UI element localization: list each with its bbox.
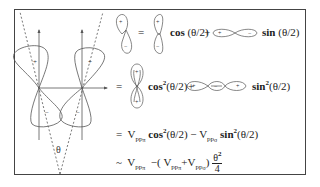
row4-inner-v1-subsub: π [178,165,181,171]
row4-inner-v2: V [188,156,196,168]
row2-sin: sin [252,80,265,92]
row2-cos-arg: (θ/2) [166,80,187,92]
svg-text:+: + [218,30,222,36]
row1-cos: cos [170,26,185,38]
row4-approx: ~ [116,156,122,168]
row3-cos: cos [148,128,163,140]
svg-text:+: + [135,99,139,105]
row1-plus: + [204,27,210,38]
row2-plus: + [188,81,194,92]
row3-v2-subsub: σ [214,137,217,143]
row3-sin-exp: 2 [234,127,238,135]
arrowhead-right [104,87,108,90]
row1-equals: = [138,27,144,38]
row4-close: ) [206,156,210,168]
row3-v2: V [199,128,207,140]
row3-expression: = Vppπ cos2(θ/2) − Vppσ sin2(θ/2) [116,129,258,140]
row3-sin: sin [220,128,233,140]
svg-text:+: + [119,19,123,25]
row3-sin-arg: (θ/2) [237,128,258,140]
sign-lower-right: − [76,109,80,117]
svg-text:+: + [236,83,240,89]
orbital-left-upper-lobe [13,46,48,88]
row4-expression: ~ Vppπ −( Vppπ+Vppσ) θ24 [116,153,222,174]
arrowhead-right-up [81,29,84,33]
row3-cos-arg: (θ/2) [166,128,187,140]
row2-cos: cos [148,80,163,92]
row1-term1: cos (θ/2) [170,27,209,38]
svg-text:+: + [135,69,139,75]
glyph-row1-lhs-lower [122,30,132,53]
row2-sin-exp: 2 [265,79,269,87]
sign-upper-right: + [88,58,92,66]
row2-equals: = [116,81,122,92]
row2-sin-arg: (θ/2) [269,80,290,92]
row4-inner-v2-subsub: σ [203,165,206,171]
glyph-row1-horiz-right [235,29,257,37]
row1-sin-arg: (θ/2) [278,26,299,38]
row4-inner-v2-sub: pp [196,163,203,171]
row3-cos-exp: 2 [163,127,167,135]
sign-lower-left: − [45,109,49,117]
row4-fraction: θ24 [212,153,222,174]
theta-label: θ [56,144,61,155]
row2-term1: cos2(θ/2) [148,81,187,92]
arrowhead-left-up [38,29,41,33]
dashed-ray-left [20,12,60,174]
orbital-left-lower-lobe [31,88,62,127]
row4-minus-open: −( [151,156,161,168]
row3-minus: − [190,128,196,140]
orbital-right-lower-lobe [60,88,91,127]
svg-text:−: − [124,43,128,49]
orbital-right-upper-lobe [75,48,105,88]
svg-text:−: − [156,43,160,49]
sign-upper-left: + [33,58,37,66]
row4-frac-exp: 2 [218,150,222,158]
row2-cos-exp: 2 [163,79,167,87]
row2-term2: sin2(θ/2) [252,81,290,92]
dashed-ray-right [60,12,103,174]
svg-text:−: − [248,30,252,36]
glyph-row2-stack-upper [131,64,143,86]
row1-sin: sin [262,26,275,38]
row3-v1-subsub: π [142,137,145,143]
row3-equals: = [116,128,122,140]
row1-term2: sin (θ/2) [262,27,299,38]
row4-frac-den: 4 [212,164,222,174]
glyph-row1-horiz-left [213,29,235,37]
svg-text:+: + [156,19,160,25]
row4-v1-subsub: π [142,165,145,171]
